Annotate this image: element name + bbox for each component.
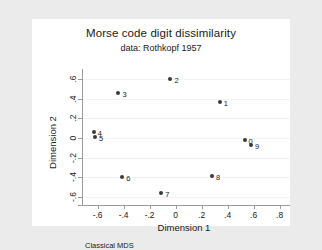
y-axis-tick-label: .6 xyxy=(68,74,78,84)
y-axis-label: Dimension 2 xyxy=(47,93,58,193)
data-point xyxy=(92,130,96,134)
x-axis-tick xyxy=(150,205,151,209)
data-point-label: 3 xyxy=(122,89,126,98)
gridline-y xyxy=(82,118,290,119)
y-axis-tick xyxy=(78,158,82,159)
data-point-label: 6 xyxy=(126,174,130,183)
x-axis-tick xyxy=(98,205,99,209)
x-axis-tick-label: .6 xyxy=(250,210,257,220)
data-point-label: 5 xyxy=(99,134,103,143)
gridline-y xyxy=(82,177,290,178)
x-axis-tick xyxy=(228,205,229,209)
gridline-y xyxy=(82,79,290,80)
y-axis-tick-label: -.4 xyxy=(68,172,78,182)
gridline-y xyxy=(82,99,290,100)
x-axis-tick-label: -.6 xyxy=(93,210,103,220)
chart-screenshot: Morse code digit dissimilarity data: Rot… xyxy=(0,0,322,250)
graph-canvas: Morse code digit dissimilarity data: Rot… xyxy=(32,19,290,226)
chart-note: Classical MDS xyxy=(85,241,134,250)
x-axis-tick xyxy=(280,205,281,209)
x-axis-label: Dimension 1 xyxy=(78,222,290,233)
x-axis-line xyxy=(78,205,290,206)
y-axis-tick-label: .4 xyxy=(68,94,78,104)
x-axis-tick xyxy=(176,205,177,209)
x-axis-tick-label: .4 xyxy=(224,210,231,220)
y-axis-tick xyxy=(78,79,82,80)
data-point-label: 2 xyxy=(174,75,178,84)
x-axis-tick-label: -.2 xyxy=(145,210,155,220)
gridline-y xyxy=(82,197,290,198)
data-point xyxy=(93,135,97,139)
x-axis-tick-label: .2 xyxy=(198,210,205,220)
gridline-y xyxy=(82,138,290,139)
data-point xyxy=(249,143,253,147)
gridline-y xyxy=(82,158,290,159)
y-axis-tick-label: 0 xyxy=(68,133,78,143)
y-axis-tick xyxy=(78,99,82,100)
data-point-label: 7 xyxy=(165,190,169,199)
y-axis-tick-label: -.6 xyxy=(68,192,78,202)
chart-title: Morse code digit dissimilarity xyxy=(32,27,290,39)
x-axis-tick xyxy=(202,205,203,209)
data-point-label: 1 xyxy=(224,98,228,107)
x-axis-tick-label: 0 xyxy=(173,210,178,220)
y-axis-line xyxy=(82,69,83,205)
data-point xyxy=(218,100,222,104)
y-axis-tick xyxy=(78,138,82,139)
y-axis-tick xyxy=(78,118,82,119)
x-axis-tick-label: .8 xyxy=(276,210,283,220)
data-point-label: 8 xyxy=(216,173,220,182)
plot-area xyxy=(82,73,290,205)
y-axis-tick xyxy=(78,197,82,198)
y-axis-tick-label: .2 xyxy=(68,113,78,123)
chart-subtitle: data: Rothkopf 1957 xyxy=(32,43,290,53)
data-point-label: 9 xyxy=(255,141,259,150)
y-axis-tick xyxy=(78,177,82,178)
x-axis-tick xyxy=(254,205,255,209)
x-axis-tick xyxy=(124,205,125,209)
data-point xyxy=(243,138,247,142)
x-axis-tick-label: -.4 xyxy=(119,210,129,220)
y-axis-tick-label: -.2 xyxy=(68,153,78,163)
